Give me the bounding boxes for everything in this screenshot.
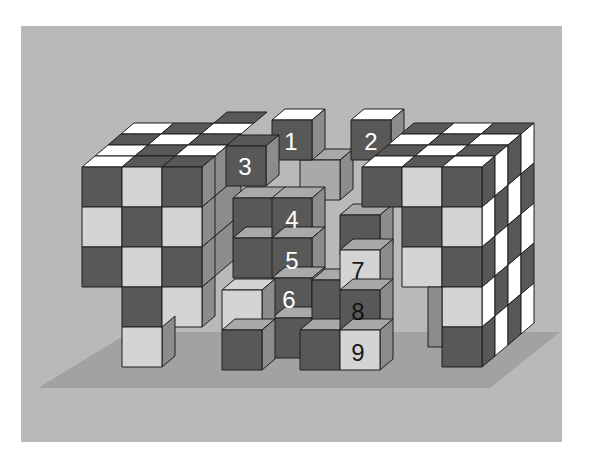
- cube-group: [82, 109, 534, 370]
- cube-label-8: 8: [351, 298, 364, 325]
- cube-front-face: [442, 207, 482, 247]
- cube-front-face: [442, 247, 482, 287]
- cube-label-7: 7: [351, 257, 364, 284]
- cube-label-9: 9: [351, 339, 364, 366]
- cube-front-face: [442, 167, 482, 207]
- cube-front-face: [442, 327, 482, 367]
- cube-label-6: 6: [282, 286, 295, 313]
- cube-top-face: [214, 112, 267, 123]
- cube-front-face: [122, 167, 162, 207]
- cube-side-face: [428, 287, 442, 347]
- cube-front-face: [442, 287, 482, 327]
- cube-label-3: 3: [238, 153, 251, 180]
- cube-label-1: 1: [284, 128, 297, 155]
- cube-front-face: [82, 207, 122, 247]
- cube-front-face: [162, 207, 202, 247]
- cube-front-face: [162, 247, 202, 287]
- cube-front-face: [82, 167, 122, 207]
- cube-front-face: [162, 287, 202, 327]
- cube-front-face: [300, 330, 340, 370]
- cube-front-face: [402, 207, 442, 247]
- cube-front-face: [362, 167, 402, 207]
- cube-front-face: [122, 287, 162, 327]
- cube-front-face: [122, 327, 162, 367]
- cube-puzzle-figure: 1 2 3 4 5 6 7 8 9: [0, 0, 591, 475]
- cube-front-face: [222, 330, 262, 370]
- cube-front-face: [122, 247, 162, 287]
- cube-label-5: 5: [285, 247, 298, 274]
- cube-front-face: [233, 238, 273, 278]
- cube-front-face: [402, 167, 442, 207]
- cube-front-face: [82, 247, 122, 287]
- cube-front-face: [402, 247, 442, 287]
- cube-front-face: [162, 167, 202, 207]
- cube-label-2: 2: [364, 128, 377, 155]
- cube-front-face: [122, 207, 162, 247]
- cube-label-4: 4: [285, 206, 298, 233]
